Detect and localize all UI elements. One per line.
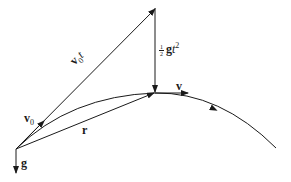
v-label: v (176, 80, 182, 92)
g-label: g (21, 157, 27, 169)
r-label: r (82, 124, 87, 136)
half-gt2-label: 1 2 gt2 (159, 43, 179, 57)
half-gt2-sup: 2 (175, 41, 179, 50)
v0-label-sub: 0 (30, 118, 34, 127)
r-vector (16, 93, 154, 149)
one-half-fraction: 1 2 (159, 44, 164, 57)
fraction-denominator: 2 (160, 51, 163, 57)
diagram-canvas (0, 0, 291, 182)
projectile-diagram: v0t 1 2 gt2 v v0 r g (0, 0, 291, 182)
v0-label: v0 (24, 112, 34, 124)
trajectory-curve (16, 93, 276, 149)
trajectory-direction-arrow-icon (200, 102, 214, 109)
